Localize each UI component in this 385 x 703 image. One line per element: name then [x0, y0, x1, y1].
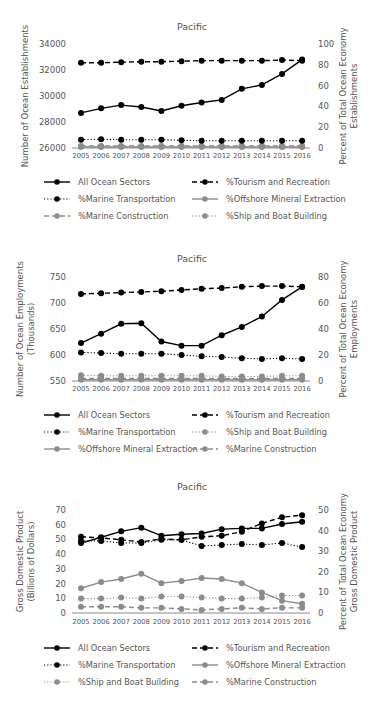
- x-tick-label: 2007: [113, 385, 130, 393]
- legend-label: %Ship and Boat Building: [78, 677, 179, 687]
- y2-tick-label: 0: [318, 608, 323, 618]
- legend-item: %Marine Transportation: [44, 194, 175, 204]
- legend-label: %Offshore Mineral Extraction: [78, 444, 198, 454]
- x-tick-label: 2005: [72, 152, 89, 160]
- series-marine-transportation: [78, 136, 305, 144]
- y2-axis-label: Percent of Total Ocean Economy: [338, 260, 348, 397]
- legend-item: All Ocean Sectors: [44, 410, 150, 420]
- series-marine-construction: [78, 604, 305, 613]
- legend-label: %Tourism and Recreation: [226, 410, 330, 420]
- x-tick-label: 2015: [273, 152, 290, 160]
- legend-label: %Offshore Mineral Extraction: [226, 194, 346, 204]
- y2-tick-label: 0: [318, 376, 323, 386]
- y-tick-label: 50: [55, 534, 66, 544]
- x-tick-label: 2006: [92, 152, 109, 160]
- series-ship-and-boat-building: [78, 592, 305, 601]
- y2-tick-label: 80: [318, 60, 329, 70]
- legend-item: %Offshore Mineral Extraction: [192, 660, 346, 670]
- y-tick-label: 10: [55, 593, 66, 603]
- y-tick-label: 26000: [39, 143, 66, 153]
- x-tick-label: 2008: [133, 152, 150, 160]
- x-tick-label: 2005: [72, 385, 89, 393]
- legend-label: %Tourism and Recreation: [226, 643, 330, 653]
- chart-svg: Pacific010203040506070010203040502005200…: [0, 475, 385, 703]
- y-tick-label: 70: [55, 505, 66, 515]
- series-tourism-and-recreation: [78, 283, 305, 297]
- legend-label: %Marine Transportation: [78, 660, 175, 670]
- y-tick-label: 30: [55, 564, 66, 574]
- y-tick-label: 600: [50, 350, 66, 360]
- y-tick-label: 60: [55, 520, 66, 530]
- series-all-ocean-sectors: [78, 57, 305, 116]
- x-tick-label: 2013: [233, 152, 250, 160]
- y2-axis-label: Percent of Total Ocean Economy: [338, 493, 348, 630]
- y2-tick-label: 40: [318, 101, 329, 111]
- x-tick-label: 2011: [193, 152, 210, 160]
- x-tick-label: 2014: [253, 385, 270, 393]
- series-offshore-mineral-extraction: [78, 377, 305, 383]
- legend-item: %Tourism and Recreation: [192, 177, 330, 187]
- chart-title: Pacific: [177, 21, 207, 32]
- y-tick-label: 650: [50, 324, 66, 334]
- y-axis-label: (Thousands): [26, 303, 36, 356]
- y-tick-label: 34000: [39, 39, 66, 49]
- y2-tick-label: 60: [318, 81, 329, 91]
- legend-item: All Ocean Sectors: [44, 643, 150, 653]
- y2-tick-label: 0: [318, 143, 323, 153]
- legend-item: %Marine Construction: [192, 677, 316, 687]
- legend-label: %Marine Transportation: [78, 194, 175, 204]
- series-all-ocean-sectors: [78, 519, 305, 546]
- legend-item: %Marine Construction: [44, 211, 168, 221]
- y2-tick-label: 10: [318, 587, 329, 597]
- y-tick-label: 28000: [39, 117, 66, 127]
- series-tourism-and-recreation: [78, 512, 305, 545]
- y2-tick-label: 30: [318, 546, 329, 556]
- x-tick-label: 2011: [193, 385, 210, 393]
- x-tick-label: 2007: [113, 618, 130, 626]
- legend-label: %Offshore Mineral Extraction: [226, 660, 346, 670]
- legend-label: %Marine Transportation: [78, 427, 175, 437]
- y2-axis-label: Establishments: [349, 63, 359, 129]
- x-tick-label: 2005: [72, 618, 89, 626]
- x-tick-label: 2016: [293, 618, 310, 626]
- series-marine-transportation: [78, 349, 305, 362]
- y2-tick-label: 50: [318, 505, 329, 515]
- legend-label: All Ocean Sectors: [78, 177, 150, 187]
- x-tick-label: 2010: [173, 618, 190, 626]
- y-tick-label: 0: [61, 608, 66, 618]
- y2-axis-label: Gross Domestic Product: [349, 510, 359, 612]
- y2-tick-label: 20: [318, 122, 329, 132]
- legend-label: %Ship and Boat Building: [226, 427, 327, 437]
- y2-axis-label: Percent of Total Ocean Economy: [338, 27, 348, 164]
- legend-item: %Offshore Mineral Extraction: [192, 194, 346, 204]
- legend-label: %Marine Construction: [226, 444, 316, 454]
- series-offshore-mineral-extraction: [78, 144, 305, 150]
- legend-item: %Marine Transportation: [44, 660, 175, 670]
- y-axis-label: Gross Domestic Product: [15, 510, 25, 612]
- legend-label: All Ocean Sectors: [78, 410, 150, 420]
- x-tick-label: 2011: [193, 618, 210, 626]
- x-tick-label: 2006: [92, 385, 109, 393]
- x-tick-label: 2013: [233, 385, 250, 393]
- x-tick-label: 2009: [153, 618, 170, 626]
- y-tick-label: 30000: [39, 91, 66, 101]
- legend-item: All Ocean Sectors: [44, 177, 150, 187]
- y2-axis-label: Employments: [349, 299, 359, 358]
- x-tick-label: 2010: [173, 385, 190, 393]
- y-tick-label: 750: [50, 272, 66, 282]
- x-tick-label: 2009: [153, 385, 170, 393]
- y-tick-label: 700: [50, 298, 66, 308]
- x-tick-label: 2016: [293, 385, 310, 393]
- legend-label: %Tourism and Recreation: [226, 177, 330, 187]
- y2-tick-label: 20: [318, 350, 329, 360]
- series-ship-and-boat-building: [78, 372, 305, 379]
- legend-item: %Ship and Boat Building: [192, 427, 327, 437]
- series-marine-transportation: [78, 537, 305, 550]
- y2-tick-label: 100: [318, 39, 334, 49]
- legend-item: %Ship and Boat Building: [192, 211, 327, 221]
- x-tick-label: 2007: [113, 152, 130, 160]
- legend-label: All Ocean Sectors: [78, 643, 150, 653]
- y2-tick-label: 40: [318, 526, 329, 536]
- chart-svg: Pacific550600650700750020406080200520062…: [0, 235, 385, 475]
- y2-tick-label: 20: [318, 567, 329, 577]
